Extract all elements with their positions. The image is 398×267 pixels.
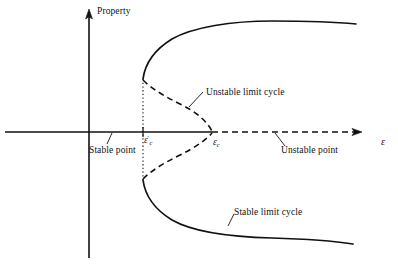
annotation-stable-point: Stable point <box>89 146 136 156</box>
annotation-stable-limit-cycle: Stable limit cycle <box>234 208 302 218</box>
leader-line-stable-point <box>107 133 112 144</box>
annotation-unstable-limit-cycle: Unstable limit cycle <box>206 88 285 98</box>
curve-unstable-limit-cycle-lower <box>143 133 212 179</box>
tick-label-eps-c-prime: ε′c <box>144 136 152 146</box>
bifurcation-diagram-figure: Property ε ε′c εc Stable point Unstable … <box>0 0 398 267</box>
plot-canvas <box>0 0 398 267</box>
curve-unstable-limit-cycle-upper <box>143 80 212 131</box>
leader-line-unstable-limit-cycle <box>189 92 203 107</box>
curve-stable-limit-cycle-upper <box>143 21 356 79</box>
x-axis-label: ε <box>381 137 385 147</box>
subscript-c: c <box>217 141 220 148</box>
y-axis-label: Property <box>97 7 131 17</box>
subscript-c: c <box>149 139 152 146</box>
tick-label-eps-c: εc <box>213 138 220 148</box>
annotation-unstable-point: Unstable point <box>281 146 338 156</box>
